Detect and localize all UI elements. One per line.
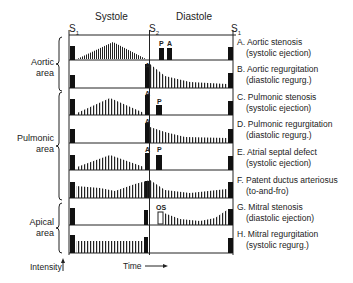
marker-p-row-e: P <box>157 145 162 155</box>
marker-p-row-a: P <box>159 39 164 49</box>
caption-row-h: H. Mitral regurgitation(systolic regurg.… <box>237 229 318 250</box>
marker-a-row-d: A <box>145 117 150 127</box>
murmur-shapes <box>76 42 227 253</box>
intensity-axis-label: Intensity <box>30 262 62 272</box>
caption-row-c: C. Pulmonic stenosis(systolic ejection) <box>237 92 316 113</box>
caption-row-a: A. Aortic stenosis(systolic ejection) <box>237 37 311 58</box>
marker-os-row-g: OS <box>156 203 166 213</box>
caption-row-d: D. Pulmonic regurgitation(diastolic regu… <box>237 119 332 140</box>
caption-row-g: G. Mitral stenosis(diastolic ejection) <box>237 202 314 223</box>
marker-a-row-c: A <box>145 89 150 99</box>
marker-a-row-b: A <box>145 61 150 71</box>
caption-row-f: F. Patent ductus arteriosus(to-and-fro) <box>237 175 338 196</box>
apical-brace <box>56 203 62 253</box>
marker-a-row-e: A <box>145 145 150 155</box>
pulmonic-brace <box>56 92 62 200</box>
aortic-brace <box>56 37 62 91</box>
marker-p-row-c: P <box>157 97 162 107</box>
caption-row-b: B. Aortic regurgitation(diastolic regurg… <box>237 64 318 85</box>
marker-a-row-a: A <box>167 39 172 49</box>
caption-row-e: E. Atrial septal defect(systolic ejectio… <box>237 147 317 168</box>
time-axis-label: Time <box>123 261 142 271</box>
